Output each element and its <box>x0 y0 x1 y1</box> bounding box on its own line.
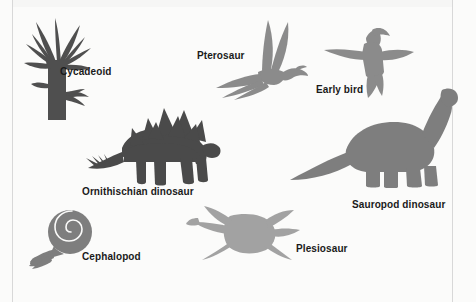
caption-sauropod-dinosaur: Sauropod dinosaur <box>352 199 445 210</box>
sauropod-icon <box>288 88 464 188</box>
page-top-bleed <box>13 0 452 7</box>
caption-plesiosaur: Plesiosaur <box>296 243 348 254</box>
caption-cycadeoid: Cycadeoid <box>60 66 111 77</box>
stegosaur-icon <box>84 96 224 186</box>
plesiosaur-icon <box>184 204 302 266</box>
caption-cephalopod: Cephalopod <box>82 251 141 262</box>
page-rule-left <box>12 0 13 302</box>
caption-ornithischian-dinosaur: Ornithischian dinosaur <box>82 186 194 197</box>
caption-pterosaur: Pterosaur <box>197 50 245 61</box>
mesozoic-life-figure: Cycadeoid Pterosaur <box>0 0 476 302</box>
